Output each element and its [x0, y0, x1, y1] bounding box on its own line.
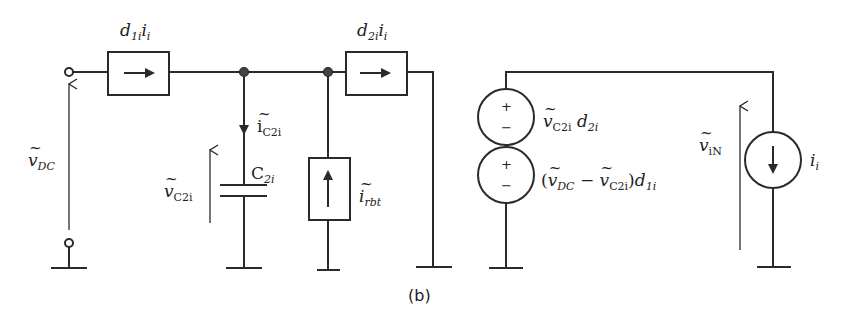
source-voltage-label: vDC [28, 152, 55, 172]
voltage-source-top [478, 89, 534, 145]
plus-sign: + [501, 158, 512, 171]
capacitor-current-label: iC2i [257, 118, 281, 138]
capacitor-voltage-label: vC2i [164, 183, 193, 203]
minus-sign: − [501, 179, 512, 192]
top-terminal [65, 68, 73, 76]
figure-caption: (b) [408, 288, 431, 304]
node-dot [324, 68, 333, 77]
output-voltage-label: viN [699, 137, 722, 157]
circuit-diagram [0, 0, 848, 318]
minus-sign: − [501, 121, 512, 134]
switch-source-2-label: d2iii [357, 22, 387, 42]
switch-source-1-label: d1iii [120, 22, 150, 42]
plus-sign: + [501, 100, 512, 113]
ripple-current-label: irbt [359, 188, 381, 208]
switch-source-2 [346, 52, 407, 95]
node-dot [240, 68, 249, 77]
voltage-source-bottom [478, 147, 534, 203]
left-circuit [51, 52, 452, 270]
wire [407, 72, 433, 267]
bottom-terminal [65, 239, 73, 247]
voltage-source-top-label: vC2i d2i [543, 113, 598, 133]
voltage-source-bottom-label: (vDC − vC2i)d1i [541, 172, 656, 192]
capacitor-label: C2i [251, 165, 275, 185]
switch-source-1 [108, 52, 169, 95]
load-current-label: ii [810, 152, 819, 172]
ripple-current-source [309, 158, 350, 220]
